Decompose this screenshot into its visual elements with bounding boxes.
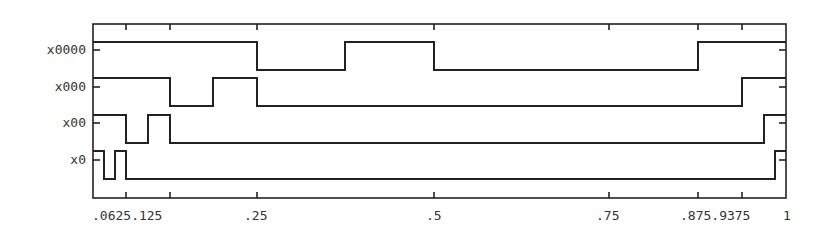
y-tick-label-x000: x000: [55, 79, 86, 94]
top-x-ticks: [126, 24, 742, 30]
trace-x0000: [93, 42, 786, 70]
x-tick-labels: .0625.125.25.5.75.875.93751: [92, 208, 791, 223]
x-tick-label: 1: [783, 208, 791, 223]
x-tick-label: .5: [426, 208, 442, 223]
trace-x00: [93, 115, 786, 143]
trace-x000: [93, 78, 786, 106]
y-tick-label-x00: x00: [63, 115, 86, 130]
plot-frame: [93, 24, 786, 198]
y-tick-labels: x0000x000x00x0: [47, 42, 86, 167]
x-tick-label: .0625.125: [92, 208, 162, 223]
y-tick-label-x0: x0: [70, 152, 86, 167]
y-tick-label-x0000: x0000: [47, 42, 86, 57]
bottom-x-ticks: [126, 192, 742, 198]
x-tick-label: .75: [596, 208, 619, 223]
step-traces: [93, 42, 786, 179]
x-tick-label: .25: [244, 208, 267, 223]
step-chart: .0625.125.25.5.75.875.93751 x0000x000x00…: [0, 0, 831, 238]
x-tick-label: .875.9375: [680, 208, 750, 223]
trace-x0: [93, 151, 786, 179]
